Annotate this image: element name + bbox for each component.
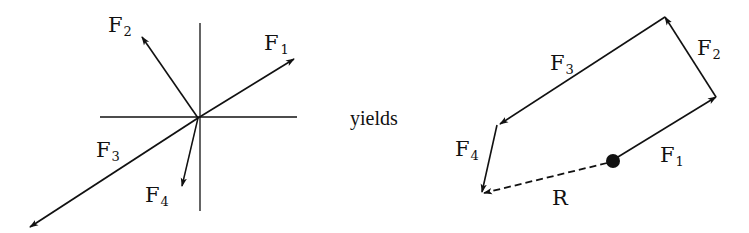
force-arrow-f3 [30, 118, 198, 227]
force-arrow-f1 [198, 59, 294, 118]
origin-dot [606, 154, 620, 168]
label-f1-right: F1 [660, 143, 684, 169]
label-f4-right: F4 [455, 137, 479, 163]
force-arrow-f2 [142, 37, 198, 118]
label-resultant: R [552, 186, 569, 210]
polygon-arrow-f4 [482, 125, 497, 192]
left-diagram: F1 F2 F3 F4 [30, 13, 297, 227]
force-arrow-f4 [182, 118, 198, 186]
label-f2-left: F2 [108, 13, 132, 39]
right-diagram: F1 F2 F3 F4 R [455, 17, 721, 210]
label-f3-right: F3 [550, 51, 574, 77]
label-f3-left: F3 [96, 138, 120, 164]
polygon-arrow-f3 [500, 17, 665, 124]
label-f4-left: F4 [145, 183, 169, 209]
force-diagram: F1 F2 F3 F4 yields F1 F2 F3 F4 R [0, 0, 749, 233]
yields-text: yields [350, 107, 398, 130]
resultant-arrow-r [484, 163, 607, 193]
label-f2-right: F2 [697, 36, 721, 62]
label-f1-left: F1 [264, 31, 289, 57]
